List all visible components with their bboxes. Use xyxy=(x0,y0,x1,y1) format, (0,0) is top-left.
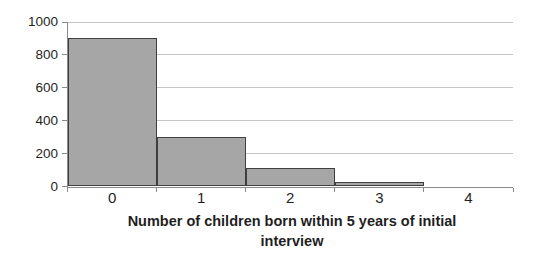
bar-1 xyxy=(157,137,246,186)
y-tick-label: 0 xyxy=(16,179,58,195)
y-tick-label: 1000 xyxy=(16,14,58,30)
x-tick-label: 3 xyxy=(335,190,424,206)
gridline xyxy=(68,22,514,23)
bar-0 xyxy=(68,38,157,186)
x-tick-label: 4 xyxy=(424,190,513,206)
x-tick-label: 0 xyxy=(68,190,157,206)
bar-3 xyxy=(335,182,424,187)
x-tick-label: 1 xyxy=(157,190,246,206)
x-axis-line xyxy=(67,187,513,188)
x-axis-title: Number of children born within 5 years o… xyxy=(97,211,487,251)
y-tick-label: 600 xyxy=(16,80,58,96)
y-tick-label: 400 xyxy=(16,113,58,129)
histogram-figure: Number of children born within 5 years o… xyxy=(0,0,540,259)
x-tick-label: 2 xyxy=(246,190,335,206)
y-tick-label: 800 xyxy=(16,47,58,63)
bar-2 xyxy=(246,168,335,186)
y-tick-label: 200 xyxy=(16,146,58,162)
